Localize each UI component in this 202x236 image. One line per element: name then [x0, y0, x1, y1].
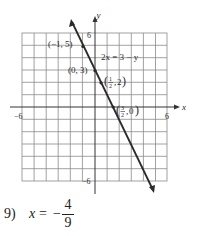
equation-label: 2x = 3 − y	[101, 52, 139, 62]
answer-fraction: 4 9	[62, 198, 74, 230]
svg-text:(: (	[116, 103, 120, 117]
svg-text:,: ,	[114, 77, 116, 87]
svg-text:2: 2	[109, 83, 112, 89]
answer-expression: 9) x = − 4 9	[4, 198, 124, 234]
problem-number: 9)	[4, 206, 16, 222]
axes	[10, 16, 180, 194]
equals-sign: =	[39, 206, 47, 222]
x-axis-label: x	[181, 102, 186, 112]
fraction-numerator: 4	[62, 198, 74, 212]
y-tick-min: −6	[82, 177, 91, 186]
x-tick-min: −6	[14, 112, 23, 121]
svg-text:(: (	[104, 74, 108, 88]
svg-text:0: 0	[129, 106, 134, 116]
negative-sign: −	[53, 206, 61, 222]
y-tick-max: 6	[87, 31, 91, 40]
coordinate-graph: y x −6 6 6 −6 (−1, 5) 2x = 3 − y (0, 3) …	[0, 0, 202, 200]
line-arrow-bottom-icon	[149, 185, 155, 193]
svg-text:1: 1	[109, 76, 112, 82]
svg-text:): )	[122, 74, 126, 88]
x-axis-arrow-icon	[174, 105, 180, 110]
y-axis-label: y	[96, 10, 101, 20]
point-label-half-2: ( 1 2 , 2 )	[104, 74, 126, 89]
svg-text:): )	[135, 103, 139, 117]
svg-text:,: ,	[126, 106, 128, 116]
point-label-neg1-5: (−1, 5)	[48, 39, 73, 49]
point-label-3half-0: ( 3 2 , 0 )	[116, 103, 139, 118]
svg-text:2: 2	[121, 112, 124, 118]
answer-variable: x	[29, 206, 35, 222]
fraction-denominator: 9	[62, 216, 74, 230]
svg-text:2: 2	[117, 77, 122, 87]
svg-text:3: 3	[121, 105, 124, 111]
point-label-0-3: (0, 3)	[68, 65, 88, 75]
x-tick-max: 6	[165, 112, 169, 121]
